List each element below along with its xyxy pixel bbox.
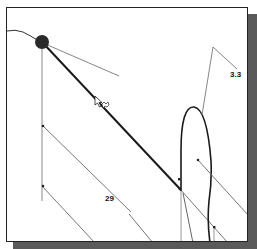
dimension-arrow-dot [197,159,200,162]
main-sketch-line[interactable] [43,43,180,189]
ellipse-curve[interactable] [181,107,211,242]
leader-line-3-3[interactable] [202,47,237,115]
endpoint-marker[interactable] [178,178,180,180]
sketch-curve-left[interactable] [7,30,39,41]
selected-point-icon[interactable] [35,35,49,49]
dimension-arrow-dot [42,125,45,128]
dimension-line-upper[interactable] [42,125,131,212]
sketch-canvas[interactable]: 3.3 29 [6,7,248,242]
dimension-label-29[interactable]: 29 [105,194,114,203]
dimension-line-upper-ext[interactable] [129,214,153,242]
dimension-label-3-3[interactable]: 3.3 [230,70,242,79]
sketch-svg[interactable]: 3.3 29 [7,8,248,242]
dimension-line-lower[interactable] [42,186,95,242]
endpoint-marker[interactable] [213,226,215,228]
angled-end-line[interactable] [183,193,193,242]
leader-line-top[interactable] [43,43,119,76]
dimension-arrow-dot [42,185,45,188]
endpoint-node[interactable] [179,188,182,191]
screenshot-stage: 3.3 29 [0,0,257,249]
ellipse-dimension-line[interactable] [198,160,248,215]
